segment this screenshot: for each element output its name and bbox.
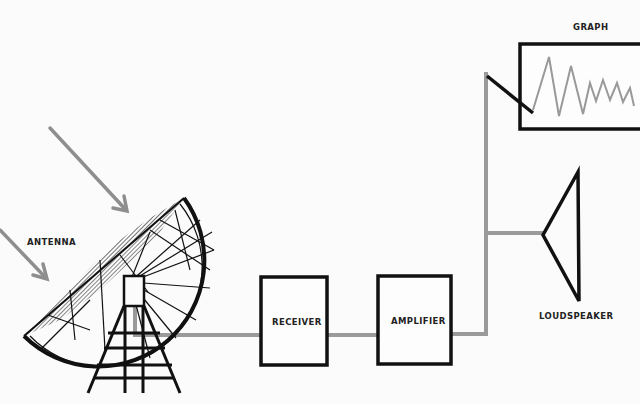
antenna-dish-icon bbox=[24, 198, 214, 367]
loudspeaker-icon bbox=[543, 172, 579, 301]
graph-label: GRAPH bbox=[573, 22, 608, 32]
receiver-label: RECEIVER bbox=[272, 317, 322, 327]
amplifier-label: AMPLIFIER bbox=[391, 316, 446, 326]
loudspeaker-label: LOUDSPEAKER bbox=[539, 311, 613, 321]
incoming-wave-arrow bbox=[50, 128, 127, 211]
antenna-label: ANTENNA bbox=[27, 237, 76, 247]
graph-recorder-icon bbox=[487, 44, 640, 129]
radio-telescope-diagram bbox=[0, 0, 640, 404]
